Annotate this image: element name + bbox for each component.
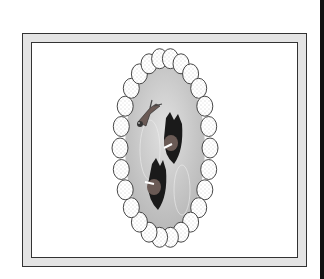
stone: [123, 198, 139, 218]
stone: [201, 117, 217, 137]
stone: [113, 117, 129, 137]
stone: [202, 138, 218, 158]
stone: [197, 96, 213, 116]
stone: [112, 138, 128, 158]
stone: [197, 180, 213, 200]
stone: [117, 96, 133, 116]
stone: [113, 160, 129, 180]
stone: [117, 180, 133, 200]
pond-illustration: [0, 0, 324, 279]
stone: [201, 160, 217, 180]
stone: [191, 78, 207, 98]
